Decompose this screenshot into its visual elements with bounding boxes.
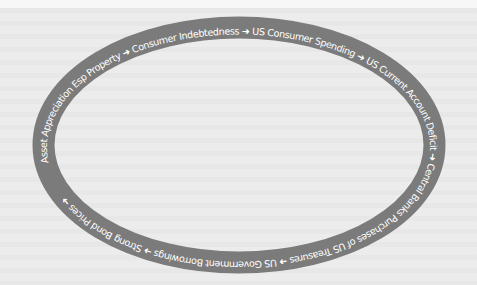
cycle-ring-text: Asset Appreciation Esp Property ➜ Consum… xyxy=(38,25,439,270)
diagram-page: Asset Appreciation Esp Property ➜ Consum… xyxy=(0,0,477,285)
cycle-diagram: Asset Appreciation Esp Property ➜ Consum… xyxy=(0,0,477,285)
ring-text-path: Asset Appreciation Esp Property ➜ Consum… xyxy=(38,25,439,270)
